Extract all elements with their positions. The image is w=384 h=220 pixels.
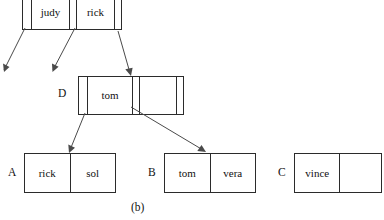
node-root: judy rick [22, 0, 122, 30]
node-b: tom vera [164, 153, 256, 193]
node-label-a: A [8, 167, 16, 179]
node-label-c: C [278, 167, 286, 179]
node-c: vince [294, 153, 382, 193]
node-root-pointer-1 [69, 0, 76, 29]
arrow-root-ptr0 [3, 28, 25, 72]
node-label-d: D [58, 88, 66, 100]
arrow-root-ptr1 [52, 28, 75, 72]
node-b-key-0: tom [165, 154, 210, 192]
node-d-pointer-2 [176, 77, 183, 114]
node-root-pointer-0 [23, 0, 31, 29]
node-root-key-1: rick [76, 0, 114, 29]
node-d-key-1 [139, 77, 176, 114]
node-a: rick sol [24, 153, 116, 193]
node-root-key-0: judy [31, 0, 69, 29]
arrow-root-ptr2-to-node-d [118, 31, 133, 76]
node-d-pointer-0 [79, 77, 87, 114]
figure-caption: (b) [131, 202, 144, 214]
figure-canvas: judy rick D tom A rick sol B tom vera C … [0, 0, 384, 220]
node-root-pointer-2 [114, 0, 121, 29]
node-d: tom [78, 76, 184, 115]
node-a-key-1: sol [70, 154, 116, 192]
node-d-key-0: tom [87, 77, 132, 114]
node-d-pointer-1 [132, 77, 139, 114]
node-a-key-0: rick [25, 154, 70, 192]
node-b-key-1: vera [210, 154, 256, 192]
node-label-b: B [148, 167, 156, 179]
node-c-key-0: vince [295, 154, 339, 192]
node-c-empty-0 [339, 154, 381, 192]
arrow-node-d-to-leaf-a [68, 113, 85, 153]
